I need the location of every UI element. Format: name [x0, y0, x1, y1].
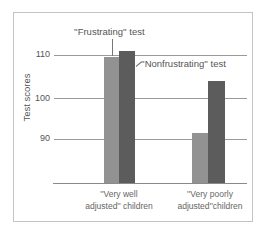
legend-nonfrustrating: ''Nonfrustrating'' test	[141, 58, 226, 69]
y-tick-110: 110	[30, 49, 50, 59]
bar-frustrating-well-adjusted	[104, 57, 119, 183]
x-category-well-line2: adjusted'' children	[74, 200, 164, 212]
y-tick-100: 100	[30, 93, 50, 103]
bar-nonfrustrating-well-adjusted	[119, 51, 135, 183]
x-category-poorly-line1: ''Very poorly	[165, 188, 255, 200]
x-axis-baseline	[53, 183, 247, 184]
x-category-well-line1: ''Very well	[74, 188, 164, 200]
x-category-poorly-line2: adjusted''children	[165, 200, 255, 212]
x-category-poorly-adjusted: ''Very poorly adjusted''children	[165, 188, 255, 212]
bar-frustrating-poorly-adjusted	[192, 133, 208, 183]
gridline-110	[54, 55, 247, 56]
legend-frustrating-leader	[112, 39, 113, 56]
x-category-well-adjusted: ''Very well adjusted'' children	[74, 188, 164, 212]
legend-frustrating: ''Frustrating'' test	[74, 26, 145, 37]
y-tick-90: 90	[30, 133, 50, 143]
bar-nonfrustrating-poorly-adjusted	[208, 81, 225, 183]
